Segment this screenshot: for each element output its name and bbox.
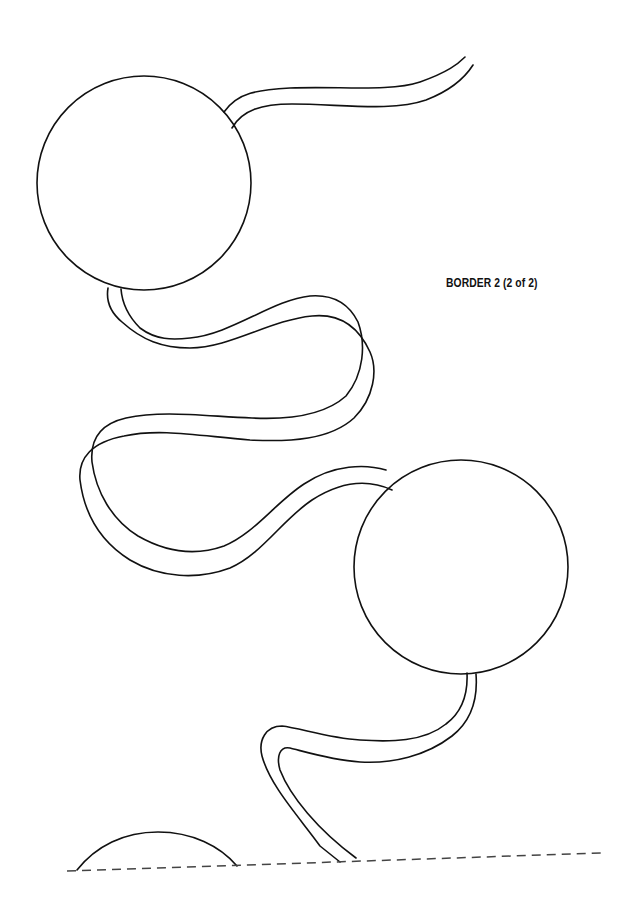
circle-top-left xyxy=(37,76,251,290)
vine-border-drawing xyxy=(0,0,638,910)
border-caption: BORDER 2 (2 of 2) xyxy=(446,276,537,290)
vine-middle-segment xyxy=(80,288,392,576)
circle-bottom-partial xyxy=(77,832,237,870)
cut-line-dashed xyxy=(67,853,602,871)
vine-top-segment xyxy=(224,57,473,128)
vine-bottom-segment xyxy=(261,673,476,862)
circle-middle-right xyxy=(354,460,568,674)
